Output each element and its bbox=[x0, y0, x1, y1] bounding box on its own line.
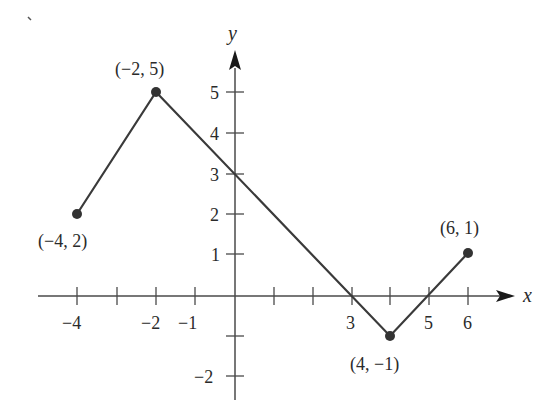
point-b bbox=[151, 87, 161, 97]
x-tick-label: 5 bbox=[424, 313, 433, 333]
point-c bbox=[385, 331, 395, 341]
point-d bbox=[463, 248, 473, 258]
y-tick-label: 3 bbox=[210, 165, 219, 185]
point-d-label: (6, 1) bbox=[440, 218, 479, 239]
x-axis bbox=[38, 287, 515, 305]
y-tick-label: 4 bbox=[210, 124, 219, 144]
x-tick-label: 6 bbox=[463, 313, 472, 333]
point-a-label: (−4, 2) bbox=[38, 231, 87, 252]
y-axis-arrow-icon bbox=[229, 50, 241, 70]
y-tick-label: −2 bbox=[194, 367, 213, 387]
x-tick-label: 3 bbox=[346, 313, 355, 333]
x-tick-label: −2 bbox=[141, 313, 160, 333]
y-tick-label: 2 bbox=[210, 205, 219, 225]
y-axis-label: y bbox=[226, 22, 237, 45]
piecewise-line bbox=[77, 92, 468, 336]
point-b-label: (−2, 5) bbox=[115, 59, 164, 80]
graph-canvas: x y −4 −2 −1 3 5 6 5 4 3 2 1 −2 (−4, 2) … bbox=[0, 0, 558, 414]
x-tick-label: −1 bbox=[178, 313, 197, 333]
y-tick-label: 1 bbox=[211, 245, 220, 265]
stray-mark bbox=[28, 17, 31, 20]
y-axis bbox=[226, 50, 244, 400]
x-tick-label: −4 bbox=[62, 313, 81, 333]
point-a bbox=[72, 209, 82, 219]
x-axis-label: x bbox=[522, 284, 532, 306]
y-tick-label: 5 bbox=[210, 83, 219, 103]
point-c-label: (4, −1) bbox=[350, 354, 399, 375]
